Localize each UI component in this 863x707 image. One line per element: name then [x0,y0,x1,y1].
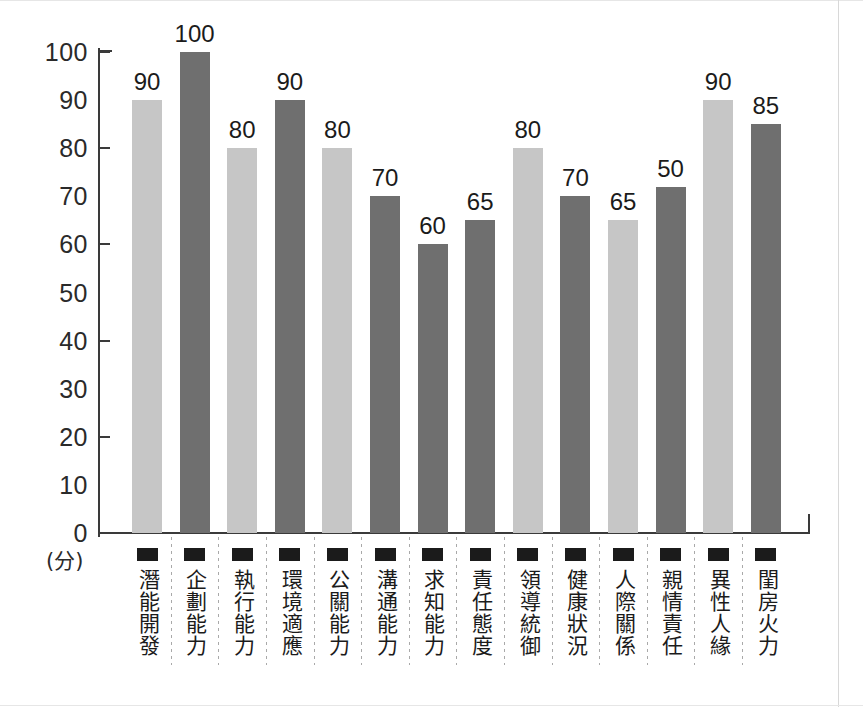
bar[interactable]: 70 [370,196,400,533]
square-marker-icon [327,548,348,561]
category-6[interactable]: 溝通能力 [358,548,412,657]
square-marker-icon [184,548,205,561]
category-14[interactable]: 閨房火力 [739,548,793,657]
bar-value-label: 50 [657,155,684,183]
bar[interactable]: 65 [608,220,638,533]
square-marker-icon [660,548,681,561]
bar[interactable]: 80 [322,148,352,533]
category-label: 執行能力 [230,569,254,657]
category-label: 健康狀況 [564,569,588,657]
square-marker-icon [565,548,586,561]
bar[interactable]: 60 [418,244,448,533]
category-label: 異性人緣 [706,569,730,657]
bar-value-label: 100 [175,20,215,48]
y-axis-tick-label: 90 [59,86,88,115]
y-axis-tick-label: 20 [59,422,88,451]
bar-value-label: 80 [514,116,541,144]
frame-border-bottom [0,705,863,706]
frame-border-top [0,0,863,1]
bar[interactable]: 90 [275,100,305,533]
square-marker-icon [375,548,396,561]
bar-value-label: 70 [372,164,399,192]
frame-border-right [838,0,839,707]
category-7[interactable]: 求知能力 [406,548,460,657]
bar[interactable]: 100 [180,52,210,533]
category-label: 親情責任 [659,569,683,657]
category-4[interactable]: 環境適應 [263,548,317,657]
bar-value-label: 80 [324,116,351,144]
bar-value-label: 90 [276,68,303,96]
y-axis-tick-label: 10 [59,470,88,499]
category-8[interactable]: 責任態度 [453,548,507,657]
category-label: 環境適應 [278,569,302,657]
y-axis-tick-label: 60 [59,230,88,259]
square-marker-icon [517,548,538,561]
y-axis-tick-label: 40 [59,326,88,355]
category-13[interactable]: 異性人緣 [691,548,745,657]
square-marker-icon [137,548,158,561]
bar-value-label: 90 [134,68,161,96]
square-marker-icon [755,548,776,561]
category-12[interactable]: 親情責任 [644,548,698,657]
category-2[interactable]: 企劃能力 [168,548,222,657]
category-label: 潛能開發 [135,569,159,657]
category-label: 責任態度 [468,569,492,657]
category-9[interactable]: 領導統御 [501,548,555,657]
y-axis-tick-label: 70 [59,182,88,211]
y-axis-tick-label: 30 [59,374,88,403]
bar-value-label: 90 [705,68,732,96]
y-axis-tick-label: 50 [59,278,88,307]
chart-page: (分) 0102030405060708090100 9010080908070… [0,0,863,707]
category-label: 公關能力 [326,569,350,657]
category-label: 溝通能力 [373,569,397,657]
bar-value-label: 60 [419,212,446,240]
square-marker-icon [232,548,253,561]
y-axis-tick-label: 0 [74,519,88,548]
square-marker-icon [613,548,634,561]
category-11[interactable]: 人際關係 [596,548,650,657]
square-marker-icon [470,548,491,561]
category-3[interactable]: 執行能力 [215,548,269,657]
square-marker-icon [422,548,443,561]
category-label: 求知能力 [421,569,445,657]
bar-value-label: 80 [229,116,256,144]
category-label: 領導統御 [516,569,540,657]
bar[interactable]: 80 [513,148,543,533]
category-1[interactable]: 潛能開發 [120,548,174,657]
y-axis-tick-label: 80 [59,134,88,163]
bar[interactable]: 80 [227,148,257,533]
category-label: 閨房火力 [754,569,778,657]
square-marker-icon [279,548,300,561]
bar-value-label: 85 [752,92,779,120]
bar[interactable]: 90 [703,100,733,533]
bar-value-label: 65 [610,188,637,216]
bar[interactable]: 70 [560,196,590,533]
category-label: 人際關係 [611,569,635,657]
x-axis-end-tick [808,514,810,534]
plot-area: 90100809080706065807065509085 [98,52,808,533]
category-5[interactable]: 公關能力 [310,548,364,657]
square-marker-icon [708,548,729,561]
y-axis-unit-label: (分) [46,544,83,574]
y-axis-tick-label: 100 [45,38,88,67]
category-label: 企劃能力 [183,569,207,657]
bar[interactable]: 85 [751,124,781,533]
bar-value-label: 70 [562,164,589,192]
bar[interactable]: 65 [465,220,495,533]
bar[interactable]: 90 [132,100,162,533]
bar[interactable]: 50 [656,187,686,533]
category-10[interactable]: 健康狀況 [548,548,602,657]
bar-value-label: 65 [467,188,494,216]
